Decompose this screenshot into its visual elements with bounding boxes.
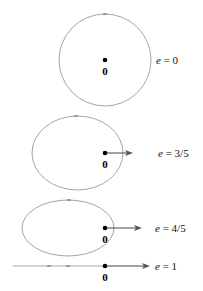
origin-label: 0 bbox=[102, 233, 108, 245]
eccentricity-label: e = 1 bbox=[155, 260, 177, 272]
eccentricity-diagram: 0 e = 0 0 e = 3/5 0 e = 4/5 0 bbox=[0, 0, 203, 291]
focus-dot bbox=[103, 58, 108, 63]
panel-line: 0 e = 1 bbox=[13, 260, 177, 283]
eccentricity-label: e = 3/5 bbox=[158, 147, 189, 159]
origin-label: 0 bbox=[102, 65, 108, 77]
panel-circle: 0 e = 0 bbox=[59, 14, 179, 106]
eccentricity-label: e = 0 bbox=[156, 54, 179, 66]
focus-dot bbox=[103, 264, 108, 269]
panel-ellipse-4-5: 0 e = 4/5 bbox=[22, 200, 186, 256]
origin-label: 0 bbox=[102, 271, 108, 283]
elliptical-orbit bbox=[22, 200, 114, 256]
origin-label: 0 bbox=[102, 158, 108, 170]
panel-ellipse-3-5: 0 e = 3/5 bbox=[32, 116, 189, 190]
focus-dot bbox=[103, 226, 108, 231]
eccentricity-label: e = 4/5 bbox=[155, 222, 186, 234]
focus-dot bbox=[103, 151, 108, 156]
